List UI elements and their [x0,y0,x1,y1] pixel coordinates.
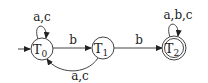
edge-t2-self [169,24,179,37]
state-t2-accepting: T2 [162,36,186,60]
edge-label-t0-self: a,c [33,10,51,24]
edge-label-t1-t2: b [135,33,143,47]
edge-label-t1-t0: a,c [71,69,89,83]
edge-t0-self [37,26,47,39]
state-t1: T1 [92,37,114,59]
automaton-diagram: a,c b a,c b a,b,c T0 T1 T2 [0,0,208,83]
state-t0: T0 [31,38,53,60]
edge-label-t0-t1: b [69,33,77,47]
edge-label-t2-self: a,b,c [163,8,192,22]
